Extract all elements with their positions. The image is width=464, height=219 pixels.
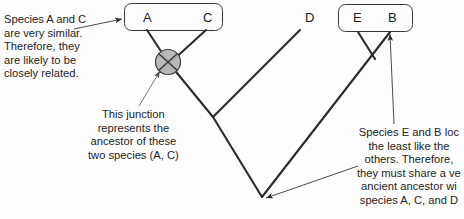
leader-right-to-root <box>266 166 358 198</box>
annotation-mid-line-2: represents the <box>88 122 179 136</box>
taxon-label-c: C <box>203 11 212 24</box>
annotation-mid-line-4: two species (A, C) <box>88 149 179 163</box>
annotation-species-e-b: Species E and B loc the least like the o… <box>357 126 461 208</box>
annotation-right-line-5: ancient ancestor wi <box>357 180 461 194</box>
taxon-label-a: A <box>143 11 152 24</box>
branch-d <box>213 30 300 117</box>
box-eb <box>339 5 413 32</box>
diagram-canvas: A C D E B Species A and C are very simil… <box>0 0 464 219</box>
leader-middle <box>139 71 160 106</box>
annotation-left-line-5: closely related. <box>4 67 86 81</box>
annotation-left-line-2: are very similar. <box>4 27 86 41</box>
taxon-label-b: B <box>388 11 397 24</box>
annotation-right-line-1: Species E and B loc <box>357 126 461 140</box>
taxon-label-e: E <box>353 11 362 24</box>
annotation-right-line-3: others. Therefore, <box>357 153 461 167</box>
annotation-left-line-4: are likely to be <box>4 54 86 68</box>
branch-acd-stem <box>213 117 262 197</box>
annotation-junction: This junction represents the ancestor of… <box>88 108 179 162</box>
leader-right-to-b <box>390 34 394 124</box>
annotation-left-line-3: Therefore, they <box>4 40 86 54</box>
annotation-left-line-1: Species A and C <box>4 13 86 27</box>
annotation-mid-line-3: ancestor of these <box>88 135 179 149</box>
annotation-mid-line-1: This junction <box>88 108 179 122</box>
annotation-right-line-4: they must share a ve <box>357 167 461 181</box>
annotation-species-a-c: Species A and C are very similar. Theref… <box>4 13 86 81</box>
annotation-right-line-2: the least like the <box>357 140 461 154</box>
annotation-right-line-6: species A, C, and D <box>357 194 461 208</box>
taxon-label-d: D <box>305 11 314 24</box>
